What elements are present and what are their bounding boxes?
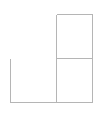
lower-left-cell-area: [11, 59, 56, 102]
lower-right-cell-area: [57, 59, 92, 102]
wireframe-diagram: [0, 0, 100, 113]
upper-right-cell-area: [57, 15, 92, 58]
diagram-canvas: [0, 0, 100, 113]
